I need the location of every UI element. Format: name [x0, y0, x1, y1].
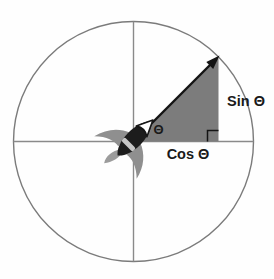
- rocket-icon: [86, 99, 174, 187]
- theta-angle-label: Θ: [153, 122, 163, 137]
- trig-circle-diagram: Θ Cos Θ Sin Θ: [0, 0, 274, 279]
- cos-label: Cos Θ: [167, 146, 210, 162]
- sin-label: Sin Θ: [227, 93, 265, 109]
- diagram-canvas: Θ Cos Θ Sin Θ: [0, 0, 274, 279]
